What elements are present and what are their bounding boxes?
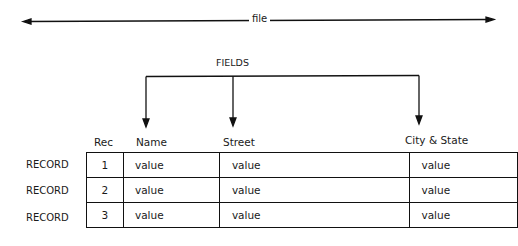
table-row: 2 value value value (87, 178, 518, 203)
cell-city-state: value (410, 153, 518, 178)
header-city-state: City & State (405, 135, 468, 146)
table-row: 3 value value value (87, 203, 518, 228)
cell-city-state: value (410, 203, 518, 228)
record-label: RECORD (26, 160, 69, 170)
records-table: 1 value value value 2 value value value … (86, 152, 518, 228)
cell-rec: 1 (87, 153, 124, 178)
fields-label: FIELDS (216, 58, 249, 68)
cell-name: value (123, 178, 219, 203)
arrow-down-icon (230, 118, 236, 126)
cell-rec: 3 (87, 203, 124, 228)
file-label: file (249, 14, 270, 24)
arrow-down-icon (143, 119, 149, 127)
record-label: RECORD (26, 186, 69, 196)
cell-rec: 2 (87, 178, 124, 203)
header-name: Name (136, 137, 167, 148)
cell-city-state: value (410, 178, 518, 203)
cell-street: value (219, 203, 410, 228)
arrow-left-icon (23, 19, 31, 24)
cell-street: value (219, 178, 410, 203)
header-rec: Rec (94, 137, 113, 148)
header-street: Street (223, 137, 255, 148)
fields-bracket (143, 76, 422, 128)
cell-street: value (219, 153, 410, 178)
cell-name: value (123, 153, 219, 178)
arrow-down-icon (416, 116, 422, 124)
arrow-right-icon (486, 17, 494, 22)
cell-name: value (123, 203, 219, 228)
table-row: 1 value value value (87, 153, 518, 178)
record-label: RECORD (26, 213, 69, 223)
